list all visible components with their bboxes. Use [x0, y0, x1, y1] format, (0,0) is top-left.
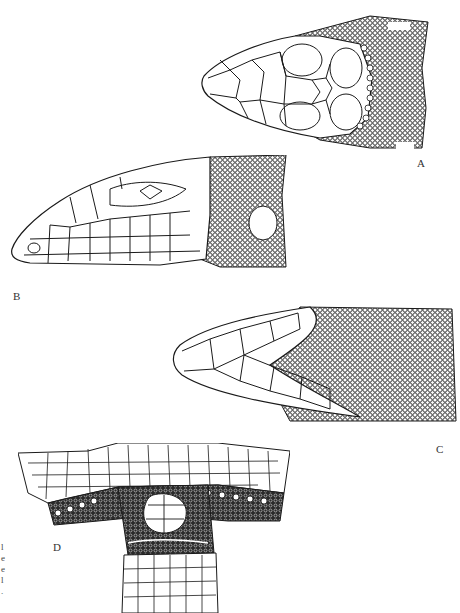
vent-region-drawing [18, 443, 290, 613]
lateral-head-drawing [10, 155, 290, 270]
panel-label-a: A [417, 157, 425, 169]
panel-label-c: C [436, 443, 444, 455]
panel-a-dorsal-head [200, 8, 435, 156]
panel-label-d: D [53, 541, 61, 553]
ventral-head-drawing [170, 305, 460, 423]
dorsal-head-drawing [200, 8, 435, 156]
panel-label-b: B [13, 290, 21, 302]
panel-c-ventral-head [170, 305, 460, 423]
panel-d-vent-region [18, 443, 290, 613]
panel-b-lateral-head [10, 155, 290, 270]
caption-fragment: . [1, 587, 7, 598]
cropped-caption-text: l e e l . [1, 543, 7, 598]
